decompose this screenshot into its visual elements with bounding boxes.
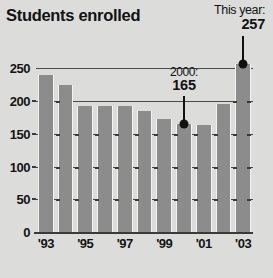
y-axis-labels: 050100150200250: [0, 52, 30, 232]
y-axis-label-0: 0: [0, 225, 30, 240]
tick-dash: [115, 167, 119, 169]
bar: [196, 125, 212, 232]
tick-dash: [233, 134, 237, 136]
plot-area: [36, 52, 253, 232]
tick-dash: [174, 199, 178, 201]
annotation-year-2000-marker-dot: [179, 120, 188, 129]
tick-dash: [174, 167, 178, 169]
bar: [156, 119, 172, 232]
tick-dash: [95, 134, 99, 136]
x-axis-label-01: '01: [196, 236, 212, 251]
x-axis-label-93: '93: [38, 236, 54, 251]
bar: [176, 124, 192, 232]
tick-dash: [75, 199, 79, 201]
tick-dash: [135, 199, 139, 201]
tick-dash: [56, 101, 60, 103]
annotation-this-year-value: 257: [191, 17, 265, 32]
annotation-this-year: This year: 257: [191, 4, 265, 32]
tick-dash: [115, 199, 119, 201]
bar: [58, 85, 74, 232]
tick-dash: [95, 199, 99, 201]
bar: [137, 111, 153, 232]
bar: [216, 104, 232, 232]
bar: [38, 75, 54, 232]
x-axis-label-03: '03: [235, 236, 251, 251]
tick-dash: [75, 167, 79, 169]
tick-dash: [154, 167, 158, 169]
x-axis-label-97: '97: [117, 236, 133, 251]
tick-dash: [194, 199, 198, 201]
x-axis-label-95: '95: [77, 236, 93, 251]
y-axis-label-100: 100: [0, 159, 30, 174]
tick-dash: [56, 167, 60, 169]
tick-dash: [247, 199, 251, 201]
y-axis-label-250: 250: [0, 61, 30, 76]
tick-dash: [247, 101, 251, 103]
annotation-year-2000: 2000: 165: [170, 66, 198, 93]
tick-dash: [75, 134, 79, 136]
annotation-this-year-marker-dot: [239, 59, 248, 68]
tick-dash: [214, 167, 218, 169]
chart-title: Students enrolled: [6, 6, 140, 25]
bar: [235, 64, 251, 232]
tick-dash: [56, 134, 60, 136]
x-axis-line: [34, 232, 253, 234]
tick-dash: [194, 134, 198, 136]
tick-dash: [115, 134, 119, 136]
gridline-250: [36, 68, 253, 69]
bar: [97, 106, 113, 232]
bar: [77, 106, 93, 232]
tick-dash: [56, 199, 60, 201]
tick-dash: [154, 134, 158, 136]
tick-dash: [135, 167, 139, 169]
tick-dash: [247, 134, 251, 136]
tick-dash: [233, 101, 237, 103]
tick-dash: [247, 167, 251, 169]
tick-dash: [174, 134, 178, 136]
chart-container: Students enrolled This year: 257 0501001…: [0, 0, 273, 278]
tick-dash: [135, 134, 139, 136]
x-axis-label-99: '99: [156, 236, 172, 251]
y-axis-label-150: 150: [0, 126, 30, 141]
tick-dash: [214, 199, 218, 201]
tick-dash: [194, 167, 198, 169]
tick-dash: [214, 134, 218, 136]
tick-dash: [233, 167, 237, 169]
tick-dash: [95, 167, 99, 169]
tick-dash: [233, 199, 237, 201]
y-axis-label-50: 50: [0, 192, 30, 207]
y-axis-label-200: 200: [0, 94, 30, 109]
bar: [117, 106, 133, 232]
tick-dash: [154, 199, 158, 201]
annotation-year-2000-value: 165: [170, 78, 198, 93]
